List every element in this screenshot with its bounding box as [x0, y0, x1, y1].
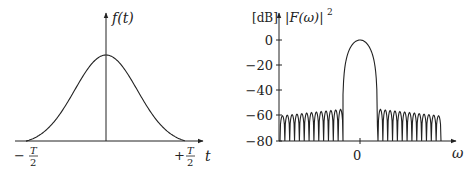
- diagram-canvas: f(t) t − T 2 + T 2 0 −20 −40 −60: [0, 0, 470, 173]
- svg-text:+: +: [174, 148, 185, 163]
- xtick-0: 0: [353, 148, 361, 163]
- svg-text:−: −: [14, 148, 25, 163]
- ytick-minus80: −80: [246, 134, 273, 149]
- ytick-minus40: −40: [246, 83, 273, 98]
- svg-text:2: 2: [30, 157, 36, 168]
- time-domain-plot: f(t) t − T 2 + T 2: [14, 10, 211, 168]
- spectrum-plot: 0 −20 −40 −60 −80 0 ω [dB] |F(ω)| 2: [246, 7, 464, 163]
- ytick-minus20: −20: [246, 58, 273, 73]
- svg-text:2: 2: [187, 157, 193, 168]
- spectrum-curve: [280, 40, 441, 141]
- db-unit-label: [dB]: [252, 11, 278, 25]
- ytick-0: 0: [265, 33, 273, 48]
- spectrum-axis-label: |F(ω)|: [285, 10, 324, 25]
- svg-text:T: T: [30, 145, 38, 156]
- t-axis-label: t: [205, 148, 211, 164]
- omega-axis-label: ω: [452, 145, 464, 161]
- tick-label-plus-T-half: + T 2: [174, 145, 195, 168]
- ytick-minus60: −60: [246, 108, 273, 123]
- svg-text:T: T: [187, 145, 195, 156]
- spectrum-axis-exponent: 2: [327, 7, 333, 17]
- tick-label-minus-T-half: − T 2: [14, 145, 38, 168]
- f-axis-label: f(t): [111, 10, 134, 26]
